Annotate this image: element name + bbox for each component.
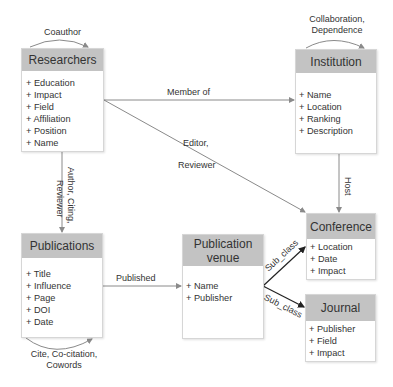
attribute: + Impact <box>309 347 375 359</box>
label-author-reviewer: Reviewer <box>54 180 65 218</box>
editor-reviewer-arrow <box>104 100 305 212</box>
entity-conference[interactable]: Conference + Location + Date + Impact <box>306 213 376 280</box>
label-published: Published <box>116 273 156 284</box>
attribute: + Name <box>26 137 103 149</box>
attribute: + Affiliation <box>26 113 103 125</box>
attribute: + Education <box>26 77 103 89</box>
label-host: Host <box>342 177 353 196</box>
attribute-list: + Name + Publisher <box>183 266 263 304</box>
label-author-citing: Author, Citing, <box>65 167 76 224</box>
entity-institution[interactable]: Institution + Name + Location + Ranking … <box>295 49 377 154</box>
attribute: + Title <box>26 268 102 280</box>
cite-arrow <box>26 338 92 349</box>
label-collaboration-line2: Dependence <box>305 25 369 36</box>
entity-title: Journal <box>306 295 375 321</box>
attribute: + Field <box>26 101 103 113</box>
attribute: + Publisher <box>309 323 375 335</box>
attribute-list: + Education + Impact + Field + Affiliati… <box>22 71 103 149</box>
attribute: + Impact <box>26 89 103 101</box>
entity-title: Publications <box>22 234 102 258</box>
entity-title: Researchers <box>22 49 103 71</box>
attribute: + Field <box>309 335 375 347</box>
attribute: + Impact <box>310 265 375 277</box>
entity-title-line1: Publication <box>194 237 253 251</box>
attribute-list: + Location + Date + Impact <box>307 239 375 277</box>
entity-journal[interactable]: Journal + Publisher + Field + Impact <box>305 294 376 362</box>
attribute: + Name <box>186 280 263 292</box>
attribute: + Position <box>26 125 103 137</box>
entity-title-line2: venue <box>207 251 240 265</box>
attribute-list: + Name + Location + Ranking + Descriptio… <box>296 73 376 137</box>
attribute: + Date <box>310 253 375 265</box>
attribute: + DOI <box>26 304 102 316</box>
attribute: + Location <box>310 241 375 253</box>
label-editor: Editor, <box>183 138 209 149</box>
entity-title: Conference <box>307 214 375 239</box>
attribute: + Page <box>26 292 102 304</box>
label-member-of: Member of <box>167 87 210 98</box>
attribute-list: + Publisher + Field + Impact <box>306 321 375 359</box>
attribute: + Influence <box>26 280 102 292</box>
label-collaboration-line1: Collaboration, <box>305 14 369 25</box>
label-cite: Cite, Co-citation, Cowords <box>24 349 104 371</box>
entity-title: Publication venue <box>183 235 263 266</box>
attribute-list: + Title + Influence + Page + DOI + Date <box>22 258 102 328</box>
entity-title: Institution <box>296 50 376 73</box>
collaboration-arrow <box>306 41 364 49</box>
entity-publication-venue[interactable]: Publication venue + Name + Publisher <box>182 234 264 339</box>
attribute: + Description <box>299 125 376 137</box>
attribute: + Location <box>299 101 376 113</box>
entity-researchers[interactable]: Researchers + Education + Impact + Field… <box>21 48 104 152</box>
entity-publications[interactable]: Publications + Title + Influence + Page … <box>21 233 103 338</box>
attribute: + Date <box>26 316 102 328</box>
label-collaboration: Collaboration, Dependence <box>305 14 369 36</box>
label-coauthor: Coauthor <box>44 27 81 38</box>
coauthor-arrow <box>30 40 88 47</box>
label-cite-line2: Cowords <box>24 360 104 371</box>
attribute: + Ranking <box>299 113 376 125</box>
attribute: + Name <box>299 89 376 101</box>
attribute: + Publisher <box>186 292 263 304</box>
label-reviewer: Reviewer <box>178 160 216 171</box>
label-cite-line1: Cite, Co-citation, <box>24 349 104 360</box>
